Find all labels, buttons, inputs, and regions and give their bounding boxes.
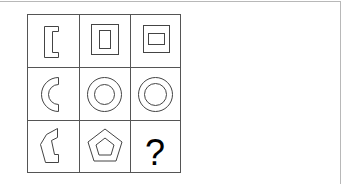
crescent-shape-icon (42, 78, 59, 112)
question-mark: ? (145, 132, 165, 173)
puzzle-grid: ? (0, 0, 358, 184)
nested-rect-horizontal-icon (144, 26, 170, 53)
concentric-circles-icon-2 (139, 78, 173, 112)
nested-rect-vertical-icon (92, 25, 119, 55)
concentric-circles-icon (88, 78, 122, 112)
nested-pentagons-icon (88, 129, 122, 161)
partial-pentagon-icon (41, 129, 59, 163)
bracket-shape-icon (45, 27, 59, 58)
